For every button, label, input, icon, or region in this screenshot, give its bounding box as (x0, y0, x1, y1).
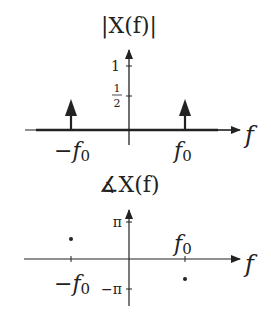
magnitude-plot: |X(f)| f 1 1 2 −f0 f0 (25, 13, 258, 165)
tick-label-half-num: 1 (114, 82, 121, 95)
tick-label-neg-pi: −π (101, 281, 122, 297)
phase-point-pos-f0 (183, 277, 187, 281)
phase-x-label: f (243, 250, 258, 278)
phase-plot: ∡X(f) f π −π f0 −f0 (24, 172, 258, 306)
phase-label-neg-f0: −f0 (54, 271, 90, 298)
impulse-arrow-icon (65, 99, 77, 116)
magnitude-title: |X(f)| (101, 13, 157, 39)
phase-point-neg-f0 (69, 237, 73, 241)
spectrum-diagram: |X(f)| f 1 1 2 −f0 f0 ∡X(f) (0, 0, 271, 326)
magnitude-x-label: f (243, 121, 258, 149)
label-neg-f0: −f0 (54, 138, 90, 165)
label-pos-f0: f0 (172, 138, 192, 165)
impulse-pos-f0 (179, 99, 191, 130)
tick-label-1: 1 (111, 58, 120, 74)
phase-label-pos-f0: f0 (172, 231, 192, 258)
phase-title: ∡X(f) (99, 172, 160, 197)
impulse-neg-f0 (65, 99, 77, 130)
tick-label-half-den: 2 (114, 97, 121, 110)
tick-label-pi: π (113, 214, 122, 230)
impulse-arrow-icon (179, 99, 191, 116)
